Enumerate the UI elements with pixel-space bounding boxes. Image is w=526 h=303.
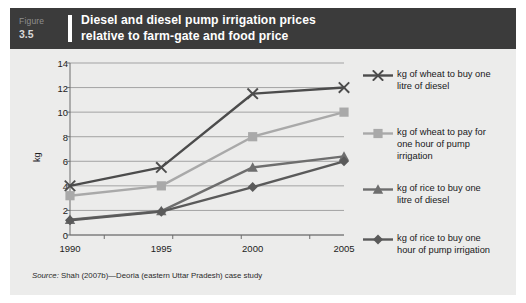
series-line: [70, 112, 344, 196]
legend-label-line: kg of rice to buy one: [397, 233, 490, 245]
legend-label-line: irrigation: [397, 151, 486, 163]
page-title: Diesel and diesel pump irrigation prices…: [81, 13, 316, 44]
legend-item[interactable]: kg of rice to buy onehour of pump irriga…: [362, 233, 490, 257]
legend-label: kg of wheat to pay forone hour of pumpir…: [394, 127, 486, 163]
figure-tag-word: Figure: [19, 17, 67, 27]
legend-label-line: kg of wheat to buy one: [397, 69, 491, 81]
page-title-line-1: Diesel and diesel pump irrigation prices: [81, 13, 316, 27]
source-note: Source: Shah (2007b)—Deoria (eastern Utt…: [32, 271, 262, 280]
legend-label-line: one hour of pump: [397, 139, 486, 151]
legend-item[interactable]: kg of wheat to buy onelitre of diesel: [362, 69, 491, 93]
source-text: Shah (2007b)—Deoria (eastern Uttar Prade…: [59, 271, 262, 280]
figure-header: Figure 3.5 Diesel and diesel pump irriga…: [10, 8, 516, 49]
legend-label: kg of rice to buy onelitre of diesel: [394, 183, 481, 207]
data-point-square: [339, 108, 348, 117]
data-point-diamond: [373, 235, 383, 245]
figure-container: Figure 3.5 Diesel and diesel pump irriga…: [0, 0, 526, 303]
legend-marker-diamond-icon: [362, 234, 394, 245]
legend-label-line: kg of wheat to pay for: [397, 127, 486, 139]
chart-area: kg 02468101214 1990199520002005: [10, 49, 350, 264]
legend-label: kg of rice to buy onehour of pump irriga…: [394, 233, 490, 257]
figure-tag: Figure 3.5: [10, 17, 67, 40]
legend-marker-triangle-icon: [362, 184, 394, 195]
legend-item[interactable]: kg of wheat to pay forone hour of pumpir…: [362, 127, 486, 163]
header-divider: [68, 15, 72, 42]
data-point-square: [248, 132, 257, 141]
plot-svg: [10, 49, 350, 264]
legend-label-line: litre of diesel: [397, 195, 481, 207]
figure-tag-number: 3.5: [19, 28, 67, 40]
legend-marker-square-icon: [362, 128, 394, 139]
page-title-line-2: relative to farm-gate and food price: [81, 29, 316, 44]
legend-label-line: hour of pump irrigation: [397, 245, 490, 257]
data-point-square: [65, 191, 74, 200]
data-point-square: [373, 129, 382, 138]
legend-marker-x-icon: [362, 70, 394, 81]
figure-panel: kg 02468101214 1990199520002005 kg of wh…: [10, 49, 516, 295]
legend-label-line: kg of rice to buy one: [397, 183, 481, 195]
legend-label-line: litre of diesel: [397, 81, 491, 93]
data-point-square: [157, 181, 166, 190]
data-point-diamond: [248, 182, 258, 192]
legend-item[interactable]: kg of rice to buy onelitre of diesel: [362, 183, 481, 207]
legend-label: kg of wheat to buy onelitre of diesel: [394, 69, 491, 93]
source-label: Source:: [32, 271, 59, 280]
